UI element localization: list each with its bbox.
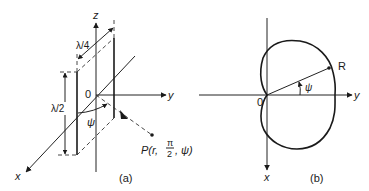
point-p (150, 133, 154, 137)
x-axis-label-b: x (263, 171, 270, 183)
point-p-label: P(r, π 2 , ψ) (141, 138, 193, 159)
radius-line (267, 68, 329, 95)
point-r-label: R (338, 60, 346, 72)
x-axis (26, 56, 135, 172)
x-axis-label: x (14, 170, 21, 182)
z-axis-label: z (92, 9, 99, 21)
svg-text:π: π (167, 138, 173, 148)
panel-b: x y 0 R ψ (b) (199, 18, 361, 184)
caption-b: (b) (310, 172, 323, 184)
psi-arc-b (299, 82, 300, 95)
panel-a: z y x 0 λ/4 λ/2 ψ (14, 9, 193, 184)
caption-a: (a) (119, 172, 132, 184)
spacing-label: λ/4 (76, 40, 90, 51)
observation-arrowhead (120, 110, 128, 119)
height-label: λ/2 (51, 103, 65, 114)
y-axis-label-b: y (353, 89, 361, 101)
svg-text:2: 2 (167, 149, 172, 159)
psi-label: ψ (87, 116, 95, 128)
svg-text:, ψ): , ψ) (175, 144, 193, 156)
y-axis-label: y (167, 89, 175, 101)
svg-text:P(r,: P(r, (141, 144, 158, 156)
point-r (327, 66, 331, 70)
psi-label-b: ψ (305, 82, 313, 93)
antenna-array-figure: z y x 0 λ/4 λ/2 ψ (0, 0, 369, 191)
origin-label: 0 (85, 88, 91, 100)
